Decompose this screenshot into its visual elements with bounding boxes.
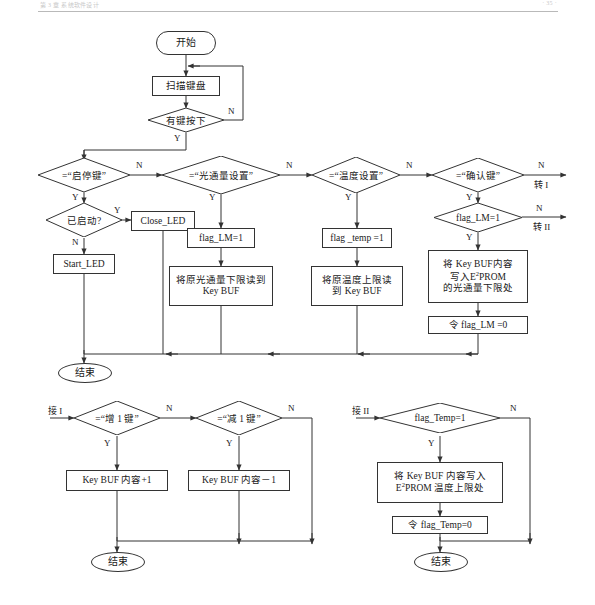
process-write-temp-to-eeprom: 将 Key BUF 内容写入 E2PROM 温度上限处 (377, 462, 503, 503)
read-temp-line1: 将原温度上限读 (322, 275, 392, 286)
process-read-flux-lower-limit: 将原光通量下限读到 Key BUF (169, 266, 273, 306)
decision-decrement-key: =“减 1 键” (196, 401, 282, 435)
decision-temperature-setting-label: =“温度设置” (312, 157, 400, 193)
decision-key-pressed: 有键按下 (148, 108, 224, 132)
decision-flux-setting-label: =“光通量设置” (162, 156, 280, 194)
edge-label-flag-lm-yes: Y (466, 232, 473, 242)
edge-label-dec-yes: Y (226, 438, 233, 448)
edge-label-flag-temp-no: N (510, 403, 517, 413)
edge-label-confirm-no: N (538, 160, 545, 170)
edge-label-startstop-yes: Y (72, 192, 79, 202)
decision-confirm-key: =“确认键” (432, 158, 524, 192)
process-keybuf-increment: Key BUF 内容+1 (66, 470, 168, 491)
edge-label-flux-yes: Y (209, 192, 216, 202)
write-flux-line2: 写入E2PROM (450, 270, 506, 283)
edge-label-started-no: N (72, 237, 79, 247)
label-entry-i: 接 I (48, 404, 62, 417)
edge-label-flux-no: N (286, 160, 293, 170)
terminator-end-branch-i: 结束 (91, 552, 145, 572)
edge-label-inc-yes: Y (104, 438, 111, 448)
label-entry-ii: 接 II (352, 404, 369, 417)
process-clear-flag-lm: 令 flag_LM =0 (428, 316, 528, 334)
label-goto-i: 转 I (534, 178, 548, 191)
process-close-led: Close_LED (131, 211, 195, 231)
process-set-flag-temp: flag _temp =1 (322, 228, 392, 248)
write-temp-line2-b: PROM 温度上限处 (405, 484, 484, 494)
write-flux-line2-b: PROM (479, 272, 506, 282)
terminator-start: 开始 (156, 31, 216, 55)
decision-key-pressed-label: 有键按下 (148, 108, 224, 132)
edge-label-key-pressed-no: N (228, 106, 235, 116)
decision-already-started-label: 已启动? (46, 203, 122, 237)
decision-increment-key: =“增 1 键” (74, 401, 160, 435)
write-flux-line1: 将 Key BUF内容 (443, 259, 512, 270)
write-temp-line1: 将 Key BUF 内容写入 (394, 471, 485, 482)
edge-label-confirm-yes: Y (466, 192, 473, 202)
write-flux-line2-a: 写入E (450, 272, 476, 282)
decision-flux-setting: =“光通量设置” (162, 156, 280, 194)
process-scan-keyboard: 扫描键盘 (152, 76, 220, 96)
edge-label-inc-no: N (166, 403, 173, 413)
process-set-flag-lm: flag_LM=1 (187, 228, 255, 248)
process-start-led: Start_LED (53, 254, 115, 274)
process-write-flux-to-eeprom: 将 Key BUF内容 写入E2PROM 的光通量下限处 (428, 250, 528, 303)
read-temp-line2: 到 Key BUF (332, 286, 381, 297)
edge-label-started-yes: Y (114, 205, 121, 215)
decision-already-started: 已启动? (46, 203, 122, 237)
terminator-end-main: 结束 (58, 363, 112, 383)
edge-label-flag-temp-yes: Y (428, 438, 435, 448)
decision-temperature-setting: =“温度设置” (312, 157, 400, 193)
terminator-end-branch-ii: 结束 (414, 552, 468, 572)
edge-label-temp-yes: Y (345, 192, 352, 202)
edge-label-dec-no: N (288, 403, 295, 413)
decision-flag-lm-label: flag_LM=1 (434, 203, 522, 232)
decision-flag-temp: flag_Temp=1 (380, 403, 500, 433)
write-flux-line3: 的光通量下限处 (443, 283, 513, 294)
edge-label-temp-no: N (406, 160, 413, 170)
flowchart-page: 第 3 章 系统软件设计 · 35 · (0, 0, 595, 605)
decision-flag-temp-label: flag_Temp=1 (380, 403, 500, 433)
edge-label-flag-lm-no: N (536, 203, 543, 213)
write-temp-line2: E2PROM 温度上限处 (396, 481, 484, 494)
read-flux-line1: 将原光通量下限读到 (176, 275, 266, 286)
decision-decrement-key-label: =“减 1 键” (196, 401, 282, 435)
decision-startstop-key-label: =“启停键” (38, 158, 130, 192)
label-goto-ii: 转 II (533, 220, 550, 233)
decision-flag-lm: flag_LM=1 (434, 203, 522, 232)
process-read-temp-upper-limit: 将原温度上限读 到 Key BUF (311, 266, 403, 306)
decision-increment-key-label: =“增 1 键” (74, 401, 160, 435)
edge-label-key-pressed-yes: Y (174, 133, 181, 143)
edge-label-startstop-no: N (136, 160, 143, 170)
read-flux-line2: Key BUF (203, 286, 240, 297)
decision-startstop-key: =“启停键” (38, 158, 130, 192)
process-keybuf-decrement: Key BUF 内容－1 (188, 470, 290, 491)
process-clear-flag-temp: 令 flag_Temp=0 (392, 516, 488, 534)
decision-confirm-key-label: =“确认键” (432, 158, 524, 192)
